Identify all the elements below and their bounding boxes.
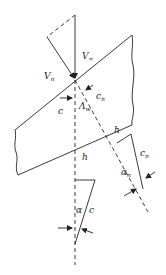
wing-leading-edge [15, 35, 132, 130]
alpha-n-triangle-side [131, 134, 143, 189]
swept-wing-diagram [0, 0, 166, 275]
wing-left-break [15, 130, 18, 175]
label-h-upper: h [114, 126, 120, 135]
wing-right-break [132, 35, 134, 125]
label-alpha-n: αn [121, 168, 131, 178]
alpha-arrow-right [82, 229, 93, 233]
alpha-n-arrow-right [146, 172, 155, 178]
label-alpha: α [76, 206, 82, 215]
label-c-small: c [89, 206, 94, 215]
label-c: c [58, 107, 63, 116]
v-component-dashed [47, 15, 75, 37]
label-c-n-small: cn [140, 149, 149, 159]
label-c-n: cn [96, 92, 105, 102]
label-lambda-w: Λw [79, 102, 91, 112]
alpha-n-arrow-left [124, 189, 136, 196]
label-h-lower: h [82, 153, 88, 162]
label-v-n: Vn [44, 72, 54, 82]
normal-chord-line [75, 80, 148, 212]
cn-arrow [86, 85, 93, 90]
alpha-n-triangle-top [117, 134, 131, 143]
label-v-inf: V∞ [82, 52, 94, 62]
